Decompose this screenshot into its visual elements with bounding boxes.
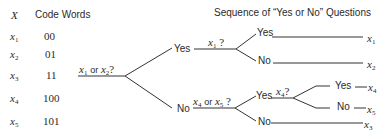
leaf-x1: x1 [367,33,375,46]
code-word: 100 [43,93,60,104]
x-column-header: X [11,10,18,21]
question-x4-or-x5: x4 or x5 ? [193,96,231,109]
no-label: No [258,56,271,66]
yes-label: Yes [174,44,190,54]
code-word: 01 [45,49,56,60]
code-words-header: Code Words [35,10,90,20]
code-word: 101 [43,116,60,127]
symbol: x1 [10,31,18,44]
leaf-x2: x2 [367,59,375,72]
no-label: No [337,102,350,112]
questions-title: Sequence of “Yes or No” Questions [214,8,371,18]
leaf-x5: x5 [367,104,375,117]
symbol: x5 [10,116,18,129]
code-word: 11 [46,70,57,81]
symbol: x4 [10,93,18,106]
symbol: x3 [10,70,18,83]
symbol: x2 [10,49,18,62]
yes-label: Yes [256,91,272,101]
leaf-x3: x3 [364,119,372,132]
leaf-x4: x4 [368,82,376,95]
question-x1: x1 ? [208,37,224,50]
no-label: No [177,104,190,114]
no-label: No [258,117,271,127]
root-question: x1 or x2? [79,64,114,77]
code-word: 00 [44,31,55,42]
decision-tree-diagram: X Code Words Sequence of “Yes or No” Que… [0,0,385,139]
yes-label: Yes [335,81,351,91]
yes-label: Yes [257,28,273,38]
question-x4: x4? [276,86,289,99]
